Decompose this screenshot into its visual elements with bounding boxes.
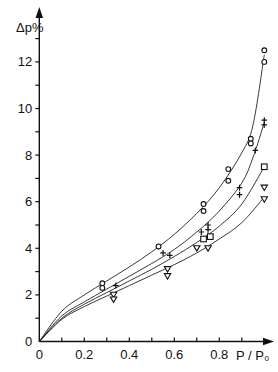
x-tick-label: 0.4 [120, 347, 138, 362]
circle-marker [100, 281, 105, 286]
triangle-marker [164, 274, 170, 279]
circle-marker [248, 136, 253, 141]
triangle-marker [261, 185, 267, 190]
cross-marker [262, 122, 268, 128]
fit-curve-square [39, 167, 264, 342]
square-marker [208, 234, 214, 240]
square-marker [262, 164, 268, 170]
circle-marker [226, 178, 231, 183]
circle-marker [201, 202, 206, 207]
y-tick-label: 0 [25, 334, 32, 349]
circle-marker [248, 141, 253, 146]
axes [36, 7, 275, 345]
x-tick-label: 0.6 [165, 347, 183, 362]
square-marker [201, 236, 207, 242]
y-tick-label: 2 [25, 287, 32, 302]
fit-curves [39, 55, 264, 342]
data-markers [100, 48, 268, 303]
y-axis-arrow-icon [36, 7, 44, 18]
y-ticks: 024681012 [18, 39, 39, 349]
circle-marker [100, 286, 105, 291]
cross-marker [205, 227, 211, 233]
y-axis-label: Δp% [16, 20, 44, 35]
y-tick-label: 6 [25, 194, 32, 209]
cross-marker [237, 192, 243, 198]
x-tick-label: 0.2 [75, 347, 93, 362]
cross-marker [253, 147, 259, 153]
circle-marker [156, 244, 161, 249]
y-tick-label: 12 [18, 54, 32, 69]
circle-marker [262, 48, 267, 53]
cross-marker [167, 252, 173, 258]
y-tick-label: 4 [25, 241, 32, 256]
x-axis-arrow-icon [263, 338, 274, 346]
y-tick-label: 10 [18, 101, 32, 116]
chart: 024681012 00.20.40.60.8 Δp% P / P₀ [0, 0, 278, 372]
y-tick-label: 8 [25, 148, 32, 163]
circle-marker [262, 60, 267, 65]
x-tick-label: 0 [36, 347, 43, 362]
x-tick-label: 0.8 [210, 347, 228, 362]
triangle-marker [194, 246, 200, 251]
triangle-marker [110, 297, 116, 302]
circle-marker [226, 167, 231, 172]
x-axis-label: P / P₀ [236, 348, 269, 363]
circle-marker [201, 209, 206, 214]
cross-marker [113, 283, 119, 289]
triangle-marker [205, 246, 211, 251]
